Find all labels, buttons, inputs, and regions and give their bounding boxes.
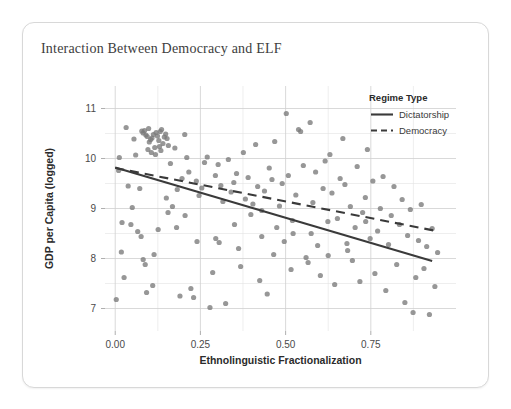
scatter-point [202,160,207,165]
scatter-point [272,139,277,144]
scatter-points [114,111,441,317]
scatter-point [232,222,237,227]
scatter-point [378,206,383,211]
scatter-point [284,111,289,116]
scatter-point [223,301,228,306]
scatter-point [355,164,360,169]
scatter-point [432,284,437,289]
scatter-point [321,186,326,191]
y-tick-label: 9 [90,203,96,214]
scatter-point [389,213,394,218]
scatter-point [213,236,218,241]
scatter-point [344,241,349,246]
scatter-point [274,225,279,230]
scatter-point [159,127,164,132]
legend-title: Regime Type [369,92,427,103]
scatter-point [151,252,156,257]
scatter-point [282,239,287,244]
scatter-point [143,262,148,267]
scatter-point [265,291,270,296]
scatter-point [119,220,124,225]
scatter-point [164,195,169,200]
scatter-point [213,173,218,178]
scatter-point [194,239,199,244]
scatter-point [309,231,314,236]
scatter-point [291,231,296,236]
scatter-point [402,300,407,305]
scatter-point [236,246,241,251]
scatter-point [121,275,126,280]
scatter-point [329,190,334,195]
scatter-point [259,234,264,239]
scatter-plot-svg: 0.000.250.500.75 7891011 Ethnolinguistic… [23,23,490,389]
scatter-point [327,152,332,157]
scatter-point [150,283,155,288]
scatter-point [165,210,170,215]
scatter-point [163,131,168,136]
scatter-point [137,186,142,191]
scatter-point [184,155,189,160]
scatter-point [186,169,191,174]
scatter-point [308,120,313,125]
scatter-point [130,205,135,210]
scatter-point [164,136,169,141]
scatter-point [205,154,210,159]
scatter-point [370,178,375,183]
scatter-point [350,258,355,263]
scatter-point [156,227,161,232]
scatter-point [269,177,274,182]
scatter-point [380,174,385,179]
scatter-point [427,312,432,317]
scatter-point [158,148,163,153]
scatter-point [325,219,330,224]
trend-line-dictatorship [115,168,432,262]
x-tick-label: 0.25 [191,339,211,350]
x-tick-label: 0.50 [276,339,296,350]
scatter-point [318,273,323,278]
scatter-point [394,262,399,267]
scatter-point [419,202,424,207]
scatter-point [182,132,187,137]
scatter-point [182,213,187,218]
scatter-point [301,163,306,168]
scatter-point [413,275,418,280]
scatter-point [286,173,291,178]
scatter-point [234,171,239,176]
scatter-point [338,176,343,181]
scatter-point [405,233,410,238]
scatter-point [342,182,347,187]
scatter-point [277,203,282,208]
scatter-point [375,228,380,233]
scatter-point [253,142,258,147]
scatter-point [250,201,255,206]
scatter-point [117,155,122,160]
scatter-point [141,257,146,262]
trend-line-democracy [115,168,434,231]
scatter-point [144,290,149,295]
scatter-point [217,240,222,245]
y-tick-label: 10 [85,153,97,164]
scatter-point [175,187,180,192]
scatter-point [168,161,173,166]
chart-plot-area: 0.000.250.500.75 7891011 Ethnolinguistic… [23,23,490,389]
scatter-point [128,222,133,227]
scatter-point [124,125,129,130]
scatter-point [170,204,175,209]
x-tick-label: 0.75 [361,339,381,350]
scatter-point [146,126,151,131]
scatter-point [131,136,136,141]
scatter-point [435,250,440,255]
scatter-point [246,175,251,180]
scatter-point [315,243,320,248]
scatter-point [365,147,370,152]
scatter-point [326,253,331,258]
scatter-point [216,162,221,167]
scatter-point [340,136,345,141]
scatter-point [280,181,285,186]
scatter-point [410,310,415,315]
scatter-point [210,270,215,275]
y-axis-title: GDP per Capita (logged) [43,148,55,269]
scatter-point [255,184,260,189]
scatter-point [262,188,267,193]
scatter-point [155,133,160,138]
